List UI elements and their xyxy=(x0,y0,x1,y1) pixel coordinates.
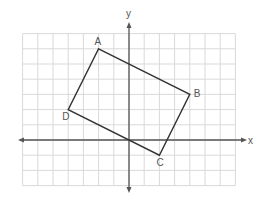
x-axis-left-arrow-icon xyxy=(18,138,24,143)
x-axis-right-arrow-icon xyxy=(241,138,247,143)
vertex-label-d: D xyxy=(62,111,69,122)
y-axis-down-arrow-icon xyxy=(127,187,132,193)
axes xyxy=(18,22,247,193)
vertex-label-a: A xyxy=(95,36,102,47)
coordinate-plane: ABCD x y xyxy=(0,0,258,201)
vertex-label-c: C xyxy=(156,157,163,168)
y-axis-label: y xyxy=(126,8,131,19)
vertex-label-b: B xyxy=(194,88,201,99)
y-axis-up-arrow-icon xyxy=(127,22,132,28)
coordinate-plane-figure: ABCD x y xyxy=(0,0,258,201)
x-axis-label: x xyxy=(248,135,253,146)
